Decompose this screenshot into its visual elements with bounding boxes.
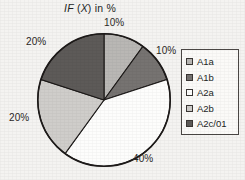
slice-value-label-a2a: 40% xyxy=(133,153,153,164)
pie-svg xyxy=(36,32,172,168)
legend-swatch-icon-a2c01 xyxy=(186,120,193,127)
chart-title-italic-variable: X xyxy=(81,2,88,14)
chart-title-paren-close: ) xyxy=(88,2,95,14)
legend-label-a2c01: A2c/01 xyxy=(197,119,227,129)
legend-swatch-icon-a1b xyxy=(186,74,193,81)
legend-item-a2a: A2a xyxy=(186,85,238,101)
slice-value-label-a1a: 10% xyxy=(104,17,124,28)
chart-title: IF (X) in % xyxy=(0,2,180,14)
legend-item-a2b: A2b xyxy=(186,101,238,117)
legend-item-a1b: A1b xyxy=(186,70,238,86)
legend: A1a A1b A2a A2b A2c/01 xyxy=(181,49,239,135)
chart-title-italic-if: IF xyxy=(64,2,74,14)
legend-label-a1b: A1b xyxy=(197,73,214,83)
legend-item-a2c01: A2c/01 xyxy=(186,116,238,132)
legend-label-a2b: A2b xyxy=(197,104,214,114)
chart-title-suffix: in % xyxy=(95,2,116,14)
legend-label-a2a: A2a xyxy=(197,88,214,98)
legend-swatch-icon-a2b xyxy=(186,105,193,112)
slice-value-label-a1b: 10% xyxy=(156,45,176,56)
slice-value-label-a2c: 20% xyxy=(26,36,46,47)
chart-title-paren-open: ( xyxy=(74,2,81,14)
slice-value-label-a2b: 20% xyxy=(9,112,29,123)
legend-swatch-icon-a2a xyxy=(186,89,193,96)
pie-plot-area xyxy=(36,32,172,168)
legend-item-a1a: A1a xyxy=(186,54,238,70)
legend-swatch-icon-a1a xyxy=(186,58,193,65)
legend-label-a1a: A1a xyxy=(197,57,214,67)
pie-chart-figure: IF (X) in % 10% 10% 40% 20% 20% A1a A1b … xyxy=(0,0,245,180)
